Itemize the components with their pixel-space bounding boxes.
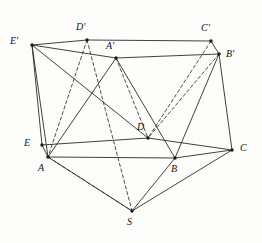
vertex-label-S: S <box>127 217 132 227</box>
edge-B-S <box>132 158 175 211</box>
vertex-dot-Dp <box>85 38 88 41</box>
vertex-label-Cp: C' <box>201 23 210 33</box>
figure-canvas <box>0 0 262 243</box>
vertex-label-Ep: E' <box>10 36 18 46</box>
vertex-dot-S <box>130 209 133 212</box>
edge-Cp-Bp <box>211 41 219 54</box>
edge-A-S <box>48 157 132 211</box>
edge-Ep-D <box>32 45 148 138</box>
edge-Ep-E <box>32 45 42 145</box>
dashed-Dp-S <box>87 40 132 211</box>
vertex-dot-Bp <box>217 52 220 55</box>
edge-E-D <box>42 138 148 145</box>
edge-Ap-Bp <box>116 54 219 58</box>
vertex-label-A: A <box>38 163 44 173</box>
edge-Bp-B <box>175 54 219 158</box>
dashed-Bp-D <box>148 54 219 138</box>
vertex-dot-C <box>230 148 233 151</box>
edge-Bp-C <box>219 54 232 150</box>
vertex-label-Ap: A' <box>106 41 114 51</box>
edge-Ep-A <box>32 45 48 157</box>
edge-Ep-Dp <box>32 40 87 45</box>
vertex-dot-B <box>173 156 176 159</box>
vertex-label-B: B <box>171 164 177 174</box>
dashed-Dp-A <box>48 40 87 157</box>
edge-C-S <box>132 150 232 211</box>
edge-D-C <box>148 138 232 150</box>
edge-B-C <box>175 150 232 158</box>
vertex-label-D: D <box>137 122 144 132</box>
vertex-label-E: E <box>24 138 30 148</box>
dashed-edges-group <box>48 40 219 211</box>
solid-edges-group <box>32 40 232 211</box>
vertex-dot-Cp <box>209 39 212 42</box>
vertex-label-Bp: B' <box>226 49 234 59</box>
edge-Ap-B <box>116 58 175 158</box>
edge-A-B <box>48 157 175 158</box>
vertex-dot-D <box>146 136 149 139</box>
vertex-dot-Ap <box>114 56 117 59</box>
vertex-label-Dp: D' <box>76 22 85 32</box>
edge-Ep-Ap <box>32 45 116 58</box>
vertex-label-C: C <box>240 143 247 153</box>
vertex-dot-Ep <box>30 43 33 46</box>
vertex-dot-A <box>46 155 49 158</box>
vertex-dot-E <box>40 143 43 146</box>
geometry-figure: E'D'C'B'A'EDCBAS <box>0 0 262 243</box>
